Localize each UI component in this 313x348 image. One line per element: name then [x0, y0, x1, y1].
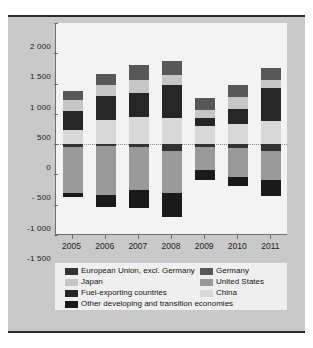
x-tick-label: 2006	[95, 241, 114, 251]
x-tick-label: 2010	[228, 241, 247, 251]
y-tick-label: -1 000	[27, 223, 51, 232]
y-tick-mark	[54, 235, 58, 236]
bar-segment	[261, 180, 281, 196]
x-tick-label: 2008	[162, 241, 181, 251]
bar-segment	[129, 190, 149, 208]
bar-segment	[261, 88, 281, 122]
x-tick-label: 2005	[62, 241, 81, 251]
bar-segment	[63, 100, 83, 110]
bar-segment	[129, 117, 149, 144]
bar-segment	[228, 177, 248, 186]
bar-segment	[228, 124, 248, 144]
legend-swatch	[200, 290, 213, 297]
x-tick-mark	[138, 235, 139, 239]
chart-legend: European Union, excl. GermanyGermanyJapa…	[55, 263, 287, 310]
bar-segment	[96, 74, 116, 86]
bar-segment	[261, 121, 281, 144]
y-tick-label: 500	[37, 132, 51, 141]
y-tick-mark	[54, 23, 58, 24]
legend-label: United States	[216, 277, 264, 287]
bar-segment	[129, 147, 149, 190]
bar-segment	[261, 151, 281, 179]
bar-2010	[228, 23, 248, 235]
legend-label: Japan	[81, 277, 103, 287]
bar-segment	[129, 80, 149, 93]
bar-segment	[162, 144, 182, 151]
x-tick-label: 2009	[195, 241, 214, 251]
bar-2005	[63, 23, 83, 235]
y-tick-label: 2 000	[30, 42, 51, 51]
y-tick-label: - 500	[32, 193, 51, 202]
x-tick-label: 2007	[128, 241, 147, 251]
x-axis-labels: 2005200620072008200920102011	[55, 241, 287, 255]
bar-segment	[96, 195, 116, 207]
bar-segment	[129, 65, 149, 80]
legend-swatch	[65, 290, 78, 297]
bar-2008	[162, 23, 182, 235]
bar-2007	[129, 23, 149, 235]
y-tick-label: 1 500	[30, 72, 51, 81]
bar-segment	[195, 118, 215, 126]
bar-segment	[162, 61, 182, 75]
x-tick-mark	[204, 235, 205, 239]
y-tick-label: 0	[46, 163, 51, 172]
bar-segment	[96, 146, 116, 195]
y-tick-mark	[54, 144, 58, 145]
bar-segment	[162, 85, 182, 119]
bar-segment	[195, 98, 215, 110]
bar-segment	[261, 68, 281, 80]
y-tick-mark	[54, 205, 58, 206]
bar-segment	[228, 97, 248, 109]
bar-segment	[63, 91, 83, 100]
bar-segment	[195, 126, 215, 144]
legend-swatch	[65, 279, 78, 286]
legend-swatch	[65, 268, 78, 275]
bar-segment	[162, 75, 182, 84]
x-tick-mark	[171, 235, 172, 239]
legend-label: Germany	[216, 266, 249, 276]
bar-2009	[195, 23, 215, 235]
bar-segment	[162, 151, 182, 193]
y-tick-label: 1 000	[30, 102, 51, 111]
bar-segment	[261, 144, 281, 151]
legend-swatch	[200, 268, 213, 275]
y-tick-mark	[54, 84, 58, 85]
legend-label: Other developing and transition economie…	[81, 299, 233, 309]
bar-segment	[63, 111, 83, 131]
bar-segment	[228, 109, 248, 124]
x-tick-mark	[105, 235, 106, 239]
plot-area	[55, 23, 287, 235]
legend-swatch	[200, 279, 213, 286]
y-tick-mark	[54, 174, 58, 175]
x-tick-mark	[270, 235, 271, 239]
y-axis-labels: 2 0001 5001 0005000- 500-1 000-1 500	[8, 23, 54, 235]
bar-segment	[63, 193, 83, 198]
bar-segment	[228, 148, 248, 176]
legend-label: China	[216, 288, 237, 298]
chart-page: 2 0001 5001 0005000- 500-1 000-1 500 200…	[0, 0, 313, 348]
bar-segment	[96, 96, 116, 120]
y-tick-label: -1 500	[27, 254, 51, 263]
legend-label: Fuel-exporting countries	[81, 288, 167, 298]
legend-label: European Union, excl. Germany	[81, 266, 195, 276]
bar-segment	[162, 118, 182, 144]
bottom-rule	[8, 331, 305, 333]
bar-segment	[162, 193, 182, 216]
bar-segment	[261, 80, 281, 88]
plot-inner	[56, 23, 287, 234]
bar-2011	[261, 23, 281, 235]
legend-swatch	[65, 301, 78, 308]
bar-segment	[195, 147, 215, 170]
bar-segment	[96, 120, 116, 144]
bar-segment	[96, 85, 116, 96]
bar-segment	[228, 85, 248, 97]
bar-segment	[129, 93, 149, 118]
bar-segment	[63, 147, 83, 192]
y-tick-mark	[54, 114, 58, 115]
x-tick-mark	[237, 235, 238, 239]
bar-segment	[195, 110, 215, 119]
y-tick-mark	[54, 53, 58, 54]
bar-segment	[63, 130, 83, 144]
bar-segment	[195, 170, 215, 181]
x-tick-label: 2011	[261, 241, 279, 251]
